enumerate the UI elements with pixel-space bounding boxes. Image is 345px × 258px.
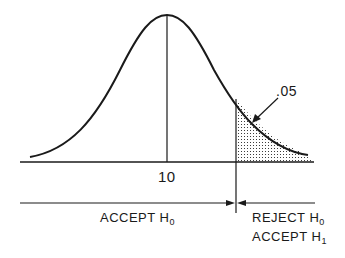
accept-h1-label: ACCEPT H1 <box>252 229 327 246</box>
tail-area-label: .05 <box>276 83 297 99</box>
reject-h0-label: REJECT H0 <box>252 210 325 227</box>
mean-label: 10 <box>158 168 176 185</box>
accept-arrowhead-icon <box>226 200 235 206</box>
normal-curve <box>30 15 308 157</box>
rejection-region-shading <box>236 99 312 162</box>
reject-arrowhead-icon <box>237 200 246 206</box>
tail-area-pointer <box>256 98 278 119</box>
accept-h0-label: ACCEPT H0 <box>100 210 175 227</box>
